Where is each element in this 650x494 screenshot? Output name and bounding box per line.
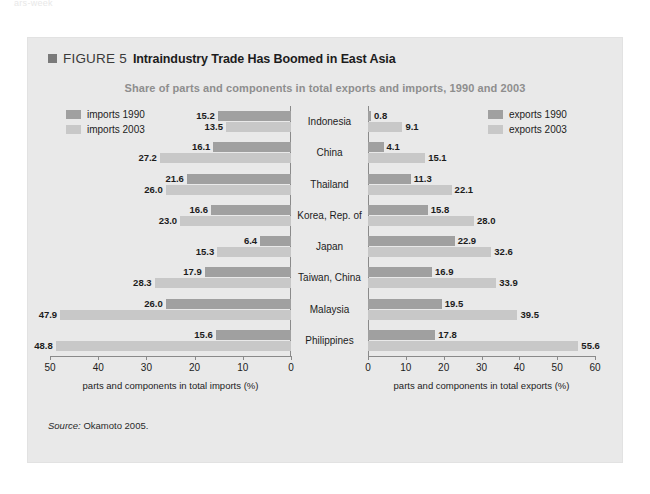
bar-value-label: 4.1 (387, 142, 400, 152)
tick-label: 0 (288, 362, 294, 373)
bar (368, 153, 425, 163)
bar (155, 278, 291, 288)
tick-label: 40 (93, 362, 104, 373)
bar-value-label: 22.1 (455, 185, 474, 195)
tick-mark (195, 356, 196, 360)
bar (368, 174, 411, 184)
bar (368, 142, 384, 152)
bar-group: 6.415.3 (50, 231, 291, 262)
bar-group: 16.127.2 (50, 137, 291, 168)
bar-value-label: 15.3 (196, 247, 215, 257)
bar-group: 16.933.9 (368, 262, 595, 293)
tick-mark (368, 356, 369, 360)
bar-group: 17.855.6 (368, 325, 595, 356)
bar-group: 4.115.1 (368, 137, 595, 168)
bar (160, 153, 291, 163)
tick-mark (482, 356, 483, 360)
tick-mark (519, 356, 520, 360)
bar-group: 11.322.1 (368, 169, 595, 200)
bar-value-label: 32.6 (494, 247, 513, 257)
tick-mark (50, 356, 51, 360)
value-axis-title: parts and components in total imports (%… (50, 380, 291, 391)
category-label: Malaysia (291, 294, 368, 325)
bar (368, 111, 371, 121)
bar-value-label: 23.0 (159, 216, 178, 226)
bar (368, 267, 432, 277)
bar-group: 19.539.5 (368, 294, 595, 325)
chart-panel-exports: 0.89.14.115.111.322.115.828.022.932.616.… (368, 106, 595, 356)
bar-value-label: 0.8 (374, 111, 387, 121)
bar-value-label: 15.8 (431, 205, 450, 215)
value-axis-ticks: 0102030405060 (368, 356, 595, 378)
bar-value-label: 16.1 (192, 142, 211, 152)
bar (368, 185, 452, 195)
bar-value-label: 26.0 (144, 185, 163, 195)
tick-mark (291, 356, 292, 360)
bar-value-label: 19.5 (445, 299, 464, 309)
tick-label: 0 (365, 362, 371, 373)
tick-mark (243, 356, 244, 360)
bar-value-label: 17.9 (183, 267, 202, 277)
bar-value-label: 17.8 (438, 330, 457, 340)
bar-value-label: 33.9 (499, 278, 518, 288)
bar-value-label: 47.9 (39, 310, 58, 320)
bar-group: 15.648.8 (50, 325, 291, 356)
bar-value-label: 28.0 (477, 216, 496, 226)
bar-group: 17.928.3 (50, 262, 291, 293)
bar-group: 16.623.0 (50, 200, 291, 231)
figure-title: Intraindustry Trade Has Boomed in East A… (133, 52, 396, 66)
category-label: Japan (291, 231, 368, 262)
category-label: Taiwan, China (291, 262, 368, 293)
tick-label: 50 (44, 362, 55, 373)
bar-value-label: 16.6 (190, 205, 209, 215)
bar-value-label: 39.5 (520, 310, 539, 320)
bar-group: 0.89.1 (368, 106, 595, 137)
bar (368, 122, 402, 132)
bar (368, 247, 491, 257)
figure-number-label: FIGURE 5 (63, 51, 127, 66)
bar-value-label: 11.3 (414, 174, 432, 184)
source-note: Source: Okamoto 2005. (48, 420, 148, 431)
chart-panel-imports: 15.213.516.127.221.626.016.623.06.415.31… (50, 106, 291, 356)
bar (368, 330, 435, 340)
bar (260, 236, 291, 246)
tick-label: 20 (189, 362, 200, 373)
category-label: Indonesia (291, 106, 368, 137)
bar-value-label: 15.6 (194, 330, 213, 340)
page-bleed-text: ars-week (14, 0, 53, 8)
tick-label: 60 (589, 362, 600, 373)
bar (368, 236, 455, 246)
bar (166, 299, 291, 309)
tick-label: 20 (438, 362, 449, 373)
category-label: Thailand (291, 169, 368, 200)
bar (187, 174, 291, 184)
tick-label: 30 (476, 362, 487, 373)
plot-area: 15.213.516.127.221.626.016.623.06.415.31… (28, 106, 622, 396)
bar-value-label: 55.6 (581, 341, 600, 351)
bar (60, 310, 291, 320)
bar-value-label: 21.6 (165, 174, 184, 184)
tick-label: 10 (237, 362, 248, 373)
category-label: Korea, Rep. of (291, 200, 368, 231)
source-label: Source: (48, 420, 81, 431)
category-label: Philippines (291, 325, 368, 356)
tick-label: 50 (552, 362, 563, 373)
bar-value-label: 16.9 (435, 267, 454, 277)
value-axis-title: parts and components in total exports (%… (368, 380, 595, 391)
bar-group: 22.932.6 (368, 231, 595, 262)
value-axis-ticks: 50403020100 (50, 356, 291, 378)
bar (166, 185, 291, 195)
bar (56, 341, 291, 351)
bar-value-label: 48.8 (34, 341, 53, 351)
bar-value-label: 9.1 (405, 122, 418, 132)
bar (213, 142, 291, 152)
figure-bullet-icon (48, 54, 57, 63)
bar (368, 205, 428, 215)
category-label: China (291, 137, 368, 168)
bar (368, 299, 442, 309)
tick-mark (406, 356, 407, 360)
figure-panel: FIGURE 5 Intraindustry Trade Has Boomed … (28, 38, 622, 462)
bar-group: 15.213.5 (50, 106, 291, 137)
bar (226, 122, 291, 132)
bar-value-label: 15.2 (196, 111, 215, 121)
